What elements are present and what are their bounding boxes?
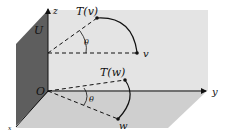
label-v: v bbox=[143, 48, 149, 59]
back-plane bbox=[48, 10, 208, 90]
label-w: w bbox=[119, 120, 128, 130]
label-z: z bbox=[52, 6, 58, 16]
label-theta-top: θ bbox=[84, 38, 89, 47]
label-theta-bottom: θ bbox=[89, 95, 94, 104]
label-x: x bbox=[8, 124, 12, 130]
point-v bbox=[135, 51, 139, 55]
label-O: O bbox=[36, 85, 45, 98]
label-Tv: T(v) bbox=[76, 5, 98, 18]
label-y: y bbox=[211, 86, 218, 97]
rotation-diagram: z U T(v) θ v O T(w) θ w y x bbox=[0, 0, 226, 130]
label-U: U bbox=[34, 24, 44, 37]
label-Tw: T(w) bbox=[100, 66, 125, 79]
